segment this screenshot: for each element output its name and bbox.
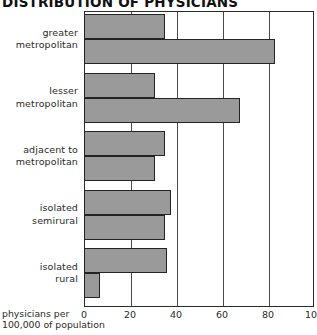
chart-title: DISTRIBUTION OF PHYSICIANS xyxy=(2,0,302,10)
x-tick-label-40: 40 xyxy=(170,309,182,320)
bars-layer xyxy=(84,11,314,307)
category-label-line: metropolitan xyxy=(0,98,78,111)
physicians-distribution-chart: DISTRIBUTION OF PHYSICIANS greatermetrop… xyxy=(0,0,317,335)
x-tick-label-80: 80 xyxy=(262,309,274,320)
bar xyxy=(84,131,165,156)
category-label-4: isolatedrural xyxy=(0,261,78,286)
x-tick-label-100: 100 xyxy=(305,309,317,320)
category-label-0: greatermetropolitan xyxy=(0,27,78,52)
x-tick-label-20: 20 xyxy=(124,309,136,320)
bar xyxy=(84,73,155,98)
category-axis-labels: greatermetropolitanlessermetropolitanadj… xyxy=(0,11,78,307)
bar xyxy=(84,156,155,181)
bar xyxy=(84,215,165,240)
category-label-line: lesser xyxy=(0,85,78,98)
category-label-line: metropolitan xyxy=(0,156,78,169)
category-label-line: semirural xyxy=(0,215,78,228)
category-label-line: rural xyxy=(0,273,78,286)
category-label-3: isolatedsemirural xyxy=(0,202,78,227)
bar xyxy=(84,39,275,64)
category-label-2: adjacent tometropolitan xyxy=(0,144,78,169)
category-label-1: lessermetropolitan xyxy=(0,85,78,110)
category-label-line: isolated xyxy=(0,261,78,274)
x-axis-tick-labels: 020406080100 xyxy=(84,309,314,323)
x-axis-caption-line: physicians per xyxy=(2,308,82,319)
bar xyxy=(84,273,100,298)
category-label-line: adjacent to xyxy=(0,144,78,157)
bar xyxy=(84,98,240,123)
bar xyxy=(84,14,165,39)
category-label-line: isolated xyxy=(0,202,78,215)
x-axis-caption: physicians per100,000 of population xyxy=(2,308,82,330)
category-label-line: metropolitan xyxy=(0,39,78,52)
category-label-line: greater xyxy=(0,27,78,40)
bar xyxy=(84,248,167,273)
x-tick-label-60: 60 xyxy=(216,309,228,320)
bar xyxy=(84,190,171,215)
x-axis-caption-line: 100,000 of population xyxy=(2,319,82,330)
